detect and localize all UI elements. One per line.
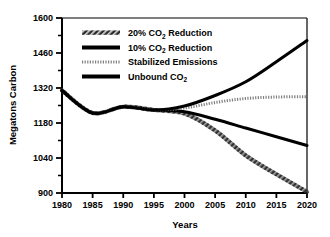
x-tick-label: 1995 (144, 200, 164, 210)
legend-label: 20% CO2 Reduction (128, 28, 212, 39)
x-tick-label: 1990 (113, 200, 133, 210)
y-tick-label: 1040 (33, 153, 53, 163)
legend-label: 10% CO2 Reduction (128, 43, 212, 54)
legend-label: Stabilized Emissions (128, 57, 218, 67)
x-tick-label: 2020 (297, 200, 317, 210)
x-tick-label: 2010 (236, 200, 256, 210)
x-axis-tick-labels: 198019851990199520002005201020152020 (52, 200, 317, 210)
y-tick-label: 1460 (33, 48, 53, 58)
y-tick-label: 1180 (33, 118, 53, 128)
x-tick-label: 2005 (205, 200, 225, 210)
x-axis-title: Years (172, 219, 197, 230)
y-tick-label: 1600 (33, 13, 53, 23)
emissions-line-chart: 90010401180132014601600 1980198519901995… (0, 0, 330, 237)
legend-label: Unbound CO2 (128, 72, 188, 83)
x-tick-label: 1985 (83, 200, 103, 210)
legend-swatch-hatched (82, 30, 120, 34)
x-tick-label: 2000 (174, 200, 194, 210)
chart-figure: 90010401180132014601600 1980198519901995… (0, 0, 330, 237)
x-tick-label: 1980 (52, 200, 72, 210)
y-tick-label: 900 (38, 188, 53, 198)
y-axis-title: Megatons Carbon (7, 65, 18, 145)
y-tick-label: 1320 (33, 83, 53, 93)
x-tick-label: 2015 (266, 200, 286, 210)
